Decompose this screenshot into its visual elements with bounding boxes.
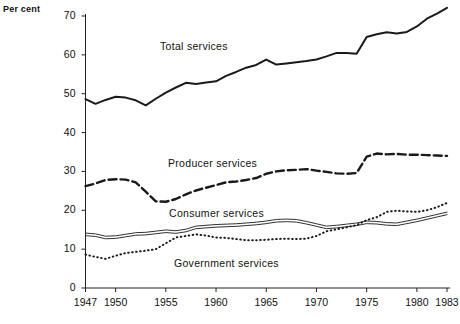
line-chart: Per cent 010203040506070 194719501955196… bbox=[0, 0, 460, 324]
series-label-consumer-services: Consumer services bbox=[169, 207, 264, 219]
series-label-producer-services: Producer services bbox=[168, 157, 257, 169]
axes bbox=[82, 14, 451, 292]
series-label-government-services: Government services bbox=[174, 257, 279, 269]
series-label-total-services: Total services bbox=[160, 40, 228, 52]
series-lines bbox=[86, 8, 448, 259]
